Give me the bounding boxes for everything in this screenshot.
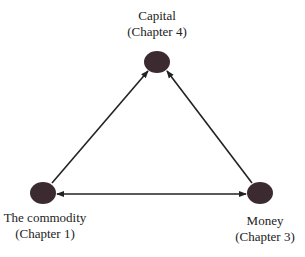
node-chapter: (Chapter 1) — [0, 226, 95, 242]
node-chapter: (Chapter 4) — [107, 24, 207, 40]
node-commodity — [30, 182, 56, 204]
node-name: Capital — [107, 8, 207, 24]
label-capital: Capital (Chapter 4) — [107, 8, 207, 40]
node-capital — [144, 51, 170, 73]
edge-commodity-to-capital — [52, 71, 148, 183]
label-commodity: The commodity (Chapter 1) — [0, 210, 95, 242]
node-chapter: (Chapter 3) — [215, 229, 305, 245]
label-money: Money (Chapter 3) — [215, 213, 305, 245]
node-name: Money — [215, 213, 305, 229]
node-name: The commodity — [0, 210, 95, 226]
edge-money-to-capital — [167, 71, 252, 183]
node-money — [247, 182, 273, 204]
